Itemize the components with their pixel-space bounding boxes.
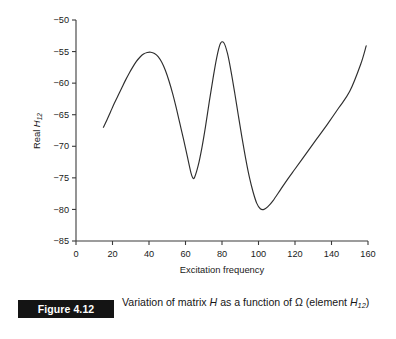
y-axis-title: Real H12 [31,113,43,149]
caption-middle: as a function of Ω (element [217,296,350,308]
line-chart-svg: −50−55−60−65−70−75−80−85 020406080100120… [0,0,396,292]
y-axis-ticks: −50−55−60−65−70−75−80−85 [53,15,76,246]
series-line-real-h12 [103,42,366,210]
x-tick-label: 120 [287,249,302,259]
y-tick-label: −75 [53,173,69,183]
chart-plot-area: −50−55−60−65−70−75−80−85 020406080100120… [0,0,396,292]
caption-suffix: ) [366,296,370,308]
figure-caption-block: Figure 4.12 Variation of matrix H as a f… [0,293,396,339]
y-tick-label: −80 [53,205,69,215]
y-tick-label: −50 [53,15,69,25]
x-tick-label: 80 [217,249,227,259]
data-series-group [103,42,366,210]
y-tick-label: −70 [53,141,69,151]
caption-prefix: Variation of matrix [122,296,210,308]
x-tick-label: 160 [360,249,375,259]
x-tick-label: 40 [144,249,154,259]
x-axis-ticks: 020406080100120140160 [73,241,375,259]
y-axis-title-subscript: 12 [36,113,43,121]
figure-caption-text: Variation of matrix H as a function of Ω… [122,295,390,313]
y-axis-title-prefix: Real [31,127,42,149]
axes-group [76,20,368,241]
x-tick-label: 140 [324,249,339,259]
y-tick-label: −65 [53,110,69,120]
figure-container: −50−55−60−65−70−75−80−85 020406080100120… [0,0,396,339]
y-tick-label: −85 [53,236,69,246]
x-axis-title: Excitation frequency [180,264,265,275]
y-tick-label: −60 [53,78,69,88]
y-tick-label: −55 [53,47,69,57]
caption-subscript: 12 [358,301,366,310]
x-tick-label: 100 [251,249,266,259]
figure-number-badge: Figure 4.12 [18,300,114,318]
x-tick-label: 0 [73,249,78,259]
caption-symbol-h-element: H [350,296,358,308]
x-tick-label: 60 [180,249,190,259]
x-tick-label: 20 [107,249,117,259]
